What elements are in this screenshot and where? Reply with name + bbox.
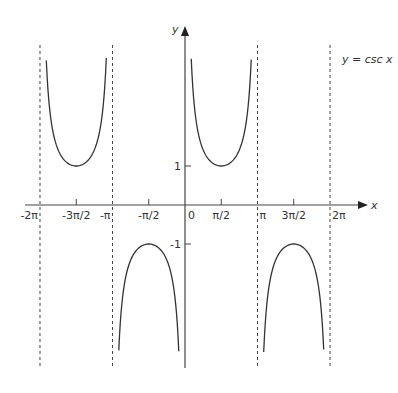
csc-plot: -2π-3π/2-π-π/20π/2π3π/22π1-1 x y y = csc… [0,0,398,393]
x-tick-label: -π [100,209,111,222]
x-tick-label: 2π [332,209,346,222]
x-axis-arrow-icon [358,201,368,209]
x-tick-label: π [260,209,267,222]
csc-branch [46,58,106,166]
x-tick-label: -3π/2 [62,209,90,222]
function-label: y = csc x [341,53,393,66]
y-tick-label: -1 [170,238,181,251]
y-axis-label: y [171,23,179,36]
x-tick-label: 0 [188,209,195,222]
y-axis-arrow-icon [181,26,189,36]
x-tick-label: 3π/2 [282,209,306,222]
x-tick-label: -π/2 [138,209,159,222]
csc-branch [264,244,324,352]
x-tick-label: -2π [20,209,38,222]
y-tick-label: 1 [174,160,181,173]
x-tick-label: π/2 [213,209,230,222]
x-axis-label: x [370,199,378,212]
axes [25,26,368,368]
csc-branch [119,244,179,351]
csc-branch [191,59,251,166]
